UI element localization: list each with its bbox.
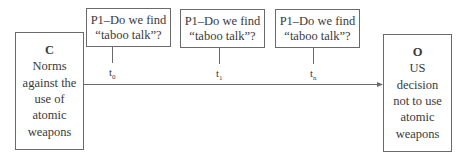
cause-text-line: Norms	[32, 58, 66, 74]
outcome-letter: O	[413, 44, 423, 60]
time-tick-t0	[112, 47, 113, 63]
outcome-text-line: not to use	[393, 93, 442, 109]
process-box-tn: P1–Do we find “taboo talk”?	[275, 9, 360, 48]
time-label-tn: tn	[310, 68, 317, 84]
cause-text-line: use of	[34, 91, 64, 107]
process-question-line2: “taboo talk”?	[95, 28, 161, 44]
time-tick-t1	[219, 48, 220, 64]
cause-box: C Norms against the use of atomic weapon…	[15, 32, 84, 150]
cause-text-line: against the	[23, 75, 77, 91]
process-box-t0: P1–Do we find “taboo talk”?	[86, 8, 171, 47]
outcome-text-line: decision	[397, 77, 439, 93]
outcome-box: O US decision not to use atomic weapons	[383, 34, 452, 152]
process-question-line1: P1–Do we find	[280, 14, 356, 30]
process-question-line2: “taboo talk”?	[189, 29, 255, 45]
outcome-text-line: US	[410, 60, 426, 76]
time-label-t0: t0	[109, 67, 116, 83]
outcome-text-line: atomic	[400, 109, 434, 125]
cause-text-line: atomic	[32, 107, 66, 123]
time-tick-tn	[313, 48, 314, 64]
process-question-line1: P1–Do we find	[91, 13, 167, 29]
process-question-line1: P1–Do we find	[185, 14, 261, 30]
time-label-t1: t1	[216, 68, 223, 84]
cause-text-line: weapons	[28, 124, 72, 140]
time-label-subscript: 1	[219, 74, 223, 82]
cause-letter: C	[45, 42, 54, 58]
process-box-t1: P1–Do we find “taboo talk”?	[180, 9, 265, 48]
time-label-subscript: 0	[112, 73, 116, 81]
time-label-subscript: n	[313, 74, 317, 82]
outcome-text-line: weapons	[396, 126, 440, 142]
process-question-line2: “taboo talk”?	[284, 29, 350, 45]
